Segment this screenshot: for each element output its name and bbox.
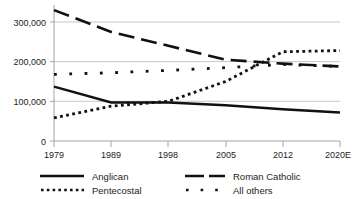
x-tick-label: 1979 xyxy=(44,150,64,160)
data-series-layer xyxy=(54,10,340,118)
x-tick-label: 2020E xyxy=(325,150,351,160)
y-axis-tick-labels: 300,000 200,000 100,000 0 xyxy=(13,18,46,147)
gridlines xyxy=(54,22,340,101)
axes xyxy=(50,5,340,147)
chart-legend: Anglican Roman Catholic Pentecostal All … xyxy=(40,171,301,196)
legend-label-roman-catholic: Roman Catholic xyxy=(233,171,301,182)
legend-label-all-others: All others xyxy=(233,185,273,196)
y-tick-label: 200,000 xyxy=(13,57,46,67)
x-tick-label: 1998 xyxy=(158,150,178,160)
x-tick-label: 2005 xyxy=(216,150,236,160)
legend-label-anglican: Anglican xyxy=(92,171,128,182)
series-line-roman-catholic xyxy=(54,10,340,66)
series-line-pentecostal xyxy=(54,51,340,118)
y-tick-label: 300,000 xyxy=(13,18,46,28)
x-tick-label: 2012 xyxy=(273,150,293,160)
line-chart: 300,000 200,000 100,000 0 1979 1989 1998… xyxy=(0,0,357,199)
series-line-all-others xyxy=(54,64,340,74)
y-tick-label: 100,000 xyxy=(13,97,46,107)
legend-label-pentecostal: Pentecostal xyxy=(92,185,142,196)
x-axis-tick-labels: 1979 1989 1998 2005 2012 2020E xyxy=(44,150,351,160)
y-tick-label: 0 xyxy=(41,137,46,147)
x-tick-label: 1989 xyxy=(101,150,121,160)
chart-canvas: 300,000 200,000 100,000 0 1979 1989 1998… xyxy=(0,0,357,199)
